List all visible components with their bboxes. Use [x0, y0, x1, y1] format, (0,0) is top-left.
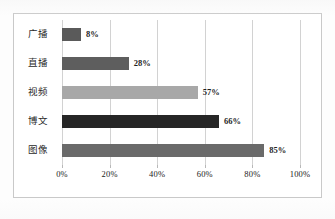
category-label: 博文	[18, 107, 58, 136]
bar[interactable]	[62, 86, 198, 99]
bar-value-label: 66%	[224, 107, 241, 136]
plot-area: 广播8%直播28%视频57%博文66%图像85% 0%20%40%60%80%1…	[14, 14, 321, 197]
x-tick-label: 80%	[244, 169, 260, 179]
bar-row: 直播28%	[14, 49, 321, 78]
x-tick-label: 20%	[102, 169, 118, 179]
bar-row: 博文66%	[14, 107, 321, 136]
bar-value-label: 85%	[269, 136, 286, 165]
x-tick-label: 0%	[56, 169, 68, 179]
category-label: 图像	[18, 136, 58, 165]
bar-row: 视频57%	[14, 78, 321, 107]
bar[interactable]	[62, 28, 81, 41]
bar[interactable]	[62, 115, 219, 128]
bar-value-label: 8%	[86, 20, 99, 49]
bar-value-label: 28%	[134, 49, 151, 78]
category-label: 广播	[18, 20, 58, 49]
x-axis-tick-labels: 0%20%40%60%80%100%	[14, 166, 321, 186]
chart-frame: 广播8%直播28%视频57%博文66%图像85% 0%20%40%60%80%1…	[13, 13, 322, 198]
category-label: 视频	[18, 78, 58, 107]
bar-row: 广播8%	[14, 20, 321, 49]
bar-row: 图像85%	[14, 136, 321, 165]
x-tick-label: 60%	[197, 169, 213, 179]
bar-value-label: 57%	[203, 78, 220, 107]
bar[interactable]	[62, 57, 129, 70]
x-tick-label: 100%	[290, 169, 311, 179]
x-tick-label: 40%	[149, 169, 165, 179]
category-label: 直播	[18, 49, 58, 78]
bar[interactable]	[62, 144, 264, 157]
